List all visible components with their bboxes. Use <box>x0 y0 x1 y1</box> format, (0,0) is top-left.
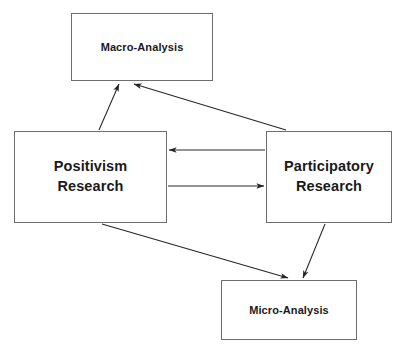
node-participatory-research: Participatory Research <box>266 131 392 223</box>
node-positivism-research-label: Positivism Research <box>54 157 128 196</box>
arrow-positivism-to-micro <box>102 224 288 278</box>
node-macro-analysis: Macro-Analysis <box>71 13 213 81</box>
arrow-participatory-to-macro <box>134 84 286 130</box>
arrow-participatory-to-micro <box>303 224 325 278</box>
node-participatory-research-label: Participatory Research <box>284 157 374 196</box>
node-micro-analysis-label: Micro-Analysis <box>249 303 329 318</box>
node-macro-analysis-label: Macro-Analysis <box>101 40 184 55</box>
diagram-canvas: Macro-Analysis Positivism Research Parti… <box>0 0 411 353</box>
node-micro-analysis: Micro-Analysis <box>221 280 357 340</box>
node-positivism-research: Positivism Research <box>14 131 167 223</box>
arrow-positivism-to-macro <box>99 84 119 130</box>
